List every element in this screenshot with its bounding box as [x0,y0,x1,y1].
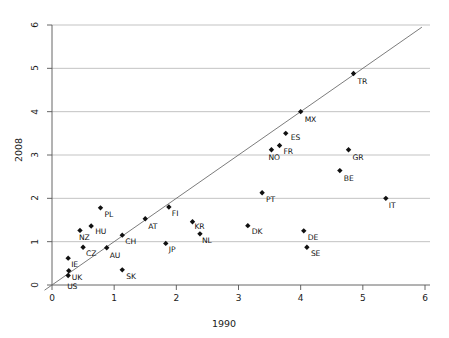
point-label-hu: HU [95,227,106,236]
data-point-tr [351,71,356,76]
point-label-mx: MX [305,115,317,124]
y-tick-label-3: 3 [30,152,40,158]
point-label-fi: FI [172,209,178,218]
data-point-fr [277,143,282,148]
point-label-nz: NZ [79,233,90,242]
point-label-dk: DK [252,227,263,236]
x-tick-label-6: 6 [422,293,428,303]
data-point-sk [120,267,125,272]
point-label-us: US [67,282,77,291]
y-tick-label-0: 0 [30,282,40,288]
x-tick-label-1: 1 [111,293,117,303]
scatter-plot-figure: 01234560123456 USUKIECZNZHUPLAUCHSKATJPF… [0,0,449,338]
point-label-cz: CZ [86,249,96,258]
data-point-cz [80,245,85,250]
point-label-es: ES [291,133,300,142]
data-point-gr [346,147,351,152]
point-label-tr: TR [358,77,368,86]
point-label-ie: IE [71,260,78,269]
x-axis-title: 1990 [212,318,236,329]
point-label-no: NO [268,153,279,162]
data-point-no [269,147,274,152]
point-label-uk: UK [72,273,82,282]
point-label-be: BE [344,174,354,183]
point-label-it: IT [389,201,396,210]
point-label-sk: SK [126,272,136,281]
point-label-kr: KR [194,222,204,231]
data-point-hu [88,223,93,228]
x-tick-label-2: 2 [173,293,179,303]
point-label-at: AT [148,222,157,231]
data-point-es [283,131,288,136]
point-label-nl: NL [202,236,212,245]
x-tick-label-0: 0 [49,293,55,303]
point-label-gr: GR [353,153,364,162]
identity-line-stroke [45,27,422,290]
data-point-us [65,273,70,278]
data-point-mx [298,109,303,114]
data-point-nz [77,228,82,233]
data-point-de [301,228,306,233]
data-markers-group [65,71,388,278]
data-point-it [383,196,388,201]
y-tick-label-1: 1 [30,239,40,245]
data-point-se [304,245,309,250]
x-tick-label-4: 4 [298,293,304,303]
point-label-se: SE [311,249,320,258]
point-label-ch: CH [125,237,136,246]
point-label-de: DE [308,233,318,242]
y-axis-title: 2008 [13,138,24,162]
x-tick-label-5: 5 [360,293,366,303]
y-tick-label-5: 5 [30,65,40,71]
y-tick-label-4: 4 [30,109,40,115]
data-point-ie [65,255,70,260]
y-tick-label-6: 6 [30,22,40,28]
point-label-jp: JP [169,245,176,254]
data-point-pl [98,205,103,210]
point-label-au: AU [110,251,121,260]
x-tick-label-3: 3 [236,293,242,303]
point-label-fr: FR [284,147,293,156]
identity-reference-line [45,27,422,290]
point-label-pt: PT [266,195,275,204]
data-point-at [143,216,148,221]
data-point-be [337,168,342,173]
data-point-dk [245,223,250,228]
axes-group [47,25,430,290]
y-tick-label-2: 2 [30,195,40,201]
data-point-pt [259,190,264,195]
point-label-pl: PL [104,210,113,219]
